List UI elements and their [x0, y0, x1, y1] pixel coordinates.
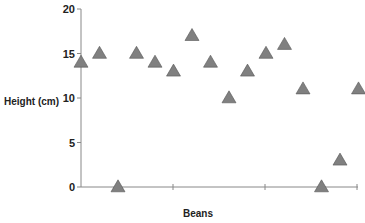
data-points: [74, 29, 365, 192]
triangle-marker: [296, 82, 310, 94]
y-tick-label: 0: [69, 181, 75, 193]
y-tick-label: 20: [63, 3, 75, 15]
y-axis-title: Height (cm): [4, 96, 59, 107]
triangle-marker: [93, 46, 107, 58]
triangle-marker: [111, 180, 125, 192]
triangle-marker: [204, 55, 218, 67]
triangle-marker: [315, 180, 329, 192]
triangle-marker: [74, 55, 88, 67]
triangle-marker: [278, 37, 292, 49]
y-tick-label: 10: [63, 92, 75, 104]
triangle-marker: [185, 29, 199, 41]
y-axis: 05101520: [63, 3, 81, 193]
triangle-marker: [259, 46, 273, 58]
triangle-marker: [130, 46, 144, 58]
x-axis-title: Beans: [183, 208, 213, 219]
triangle-marker: [241, 64, 255, 76]
y-tick-label: 15: [63, 48, 75, 60]
scatter-chart: 05101520 Height (cm) Beans: [0, 0, 365, 223]
triangle-marker: [148, 55, 162, 67]
triangle-marker: [352, 82, 365, 94]
triangle-marker: [167, 64, 181, 76]
y-tick-label: 5: [69, 137, 75, 149]
triangle-marker: [333, 153, 347, 165]
triangle-marker: [222, 91, 236, 103]
